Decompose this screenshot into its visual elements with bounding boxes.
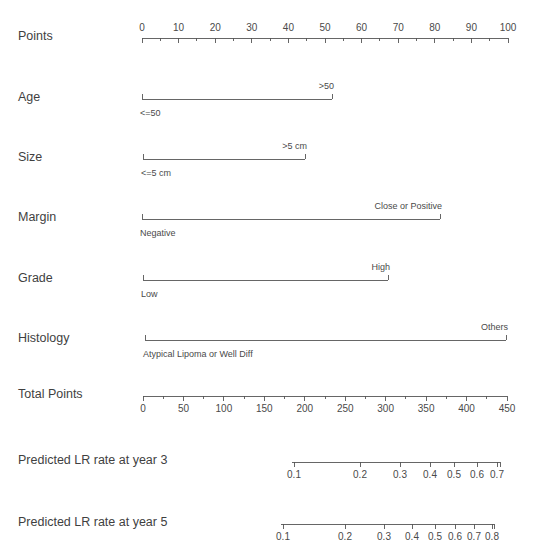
tick-label-lr-year-3-6: 0.7 (490, 469, 504, 480)
tick-label-points-6: 60 (356, 22, 368, 33)
tick-label-lr-year-5-5: 0.6 (448, 531, 462, 542)
nomogram-figure: Points0102030405060708090100Age<=50>50Si… (0, 0, 537, 557)
tick-label-points-4: 40 (283, 22, 295, 33)
level-label-histology-1: Others (481, 322, 509, 332)
tick-label-points-2: 20 (210, 22, 222, 33)
tick-label-lr-year-5-0: 0.1 (276, 531, 290, 542)
tick-label-points-9: 90 (466, 22, 478, 33)
row-label-margin: Margin (18, 210, 56, 224)
tick-label-points-5: 50 (319, 22, 331, 33)
tick-label-total-points-1: 50 (178, 403, 190, 414)
tick-label-lr-year-3-5: 0.6 (470, 469, 484, 480)
tick-label-points-7: 70 (393, 22, 405, 33)
tick-label-lr-year-5-7: 0.8 (485, 531, 499, 542)
row-label-lr-year-3: Predicted LR rate at year 3 (18, 453, 167, 467)
tick-label-points-8: 80 (429, 22, 441, 33)
tick-label-total-points-0: 0 (140, 403, 146, 414)
level-label-margin-1: Close or Positive (374, 201, 442, 211)
level-label-age-1: >50 (319, 81, 334, 91)
tick-label-lr-year-5-2: 0.3 (377, 531, 391, 542)
level-label-histology-0: Atypical Lipoma or Well Diff (143, 349, 253, 359)
tick-label-total-points-5: 250 (337, 403, 354, 414)
level-label-grade-1: High (371, 262, 390, 272)
row-label-points: Points (18, 29, 53, 43)
tick-label-points-3: 30 (246, 22, 258, 33)
tick-label-lr-year-3-0: 0.1 (287, 469, 301, 480)
tick-label-lr-year-3-1: 0.2 (353, 469, 367, 480)
tick-label-points-0: 0 (139, 22, 145, 33)
tick-label-points-1: 10 (173, 22, 185, 33)
level-label-margin-0: Negative (140, 228, 176, 238)
level-label-age-0: <=50 (140, 108, 161, 118)
tick-label-lr-year-5-6: 0.7 (467, 531, 481, 542)
tick-label-total-points-7: 350 (418, 403, 435, 414)
row-label-size: Size (18, 150, 42, 164)
tick-label-total-points-6: 300 (377, 403, 394, 414)
tick-label-points-10: 100 (500, 22, 517, 33)
tick-label-lr-year-3-3: 0.4 (423, 469, 437, 480)
tick-label-lr-year-5-1: 0.2 (338, 531, 352, 542)
tick-label-total-points-3: 150 (256, 403, 273, 414)
tick-label-lr-year-3-2: 0.3 (393, 469, 407, 480)
row-label-total-points: Total Points (18, 387, 83, 401)
level-label-size-1: >5 cm (282, 141, 307, 151)
tick-label-lr-year-3-4: 0.5 (447, 469, 461, 480)
level-label-size-0: <=5 cm (141, 168, 171, 178)
tick-label-lr-year-5-3: 0.4 (405, 531, 419, 542)
level-label-grade-0: Low (141, 289, 158, 299)
tick-label-total-points-4: 200 (296, 403, 313, 414)
row-label-age: Age (18, 90, 40, 104)
tick-label-total-points-2: 100 (216, 403, 233, 414)
row-label-grade: Grade (18, 271, 53, 285)
tick-label-total-points-9: 450 (499, 403, 516, 414)
nomogram-canvas: Points0102030405060708090100Age<=50>50Si… (0, 0, 537, 557)
tick-label-total-points-8: 400 (458, 403, 475, 414)
tick-label-lr-year-5-4: 0.5 (428, 531, 442, 542)
row-label-lr-year-5: Predicted LR rate at year 5 (18, 515, 167, 529)
row-label-histology: Histology (18, 331, 70, 345)
